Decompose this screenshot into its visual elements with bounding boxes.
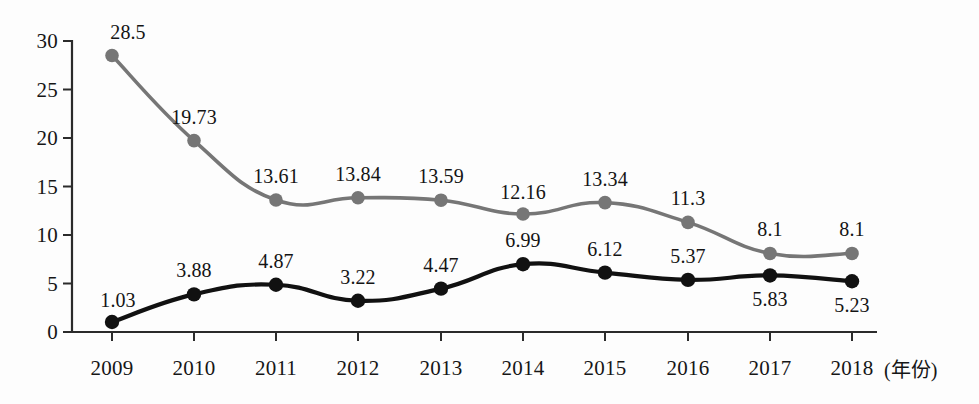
data-point-value-label: 13.34 <box>582 169 628 189</box>
data-point-marker <box>763 268 777 282</box>
data-point-value-label: 8.1 <box>839 219 864 239</box>
data-point-marker <box>681 216 695 230</box>
data-point-marker <box>516 207 530 221</box>
chart-plot-area <box>0 0 979 404</box>
data-point-value-label: 5.83 <box>752 289 787 309</box>
data-point-marker <box>351 191 365 205</box>
data-point-value-label: 13.61 <box>253 166 299 186</box>
data-point-value-label: 11.3 <box>671 188 706 208</box>
data-point-marker <box>269 278 283 292</box>
x-axis-tick-label: 2017 <box>749 358 792 379</box>
x-axis-tick-label: 2011 <box>255 358 297 379</box>
x-axis-tick-label: 2013 <box>420 358 463 379</box>
series-line-black-series <box>112 263 852 322</box>
series-line-gray-series <box>112 56 852 257</box>
data-point-marker <box>598 265 612 279</box>
data-point-marker <box>434 281 448 295</box>
data-point-value-label: 13.59 <box>418 166 464 186</box>
y-axis-tick-label: 0 <box>47 322 58 343</box>
x-axis-tick-label: 2009 <box>91 358 134 379</box>
data-point-marker <box>845 247 859 261</box>
data-point-value-label: 5.23 <box>834 295 869 315</box>
data-point-value-label: 8.1 <box>757 219 782 239</box>
y-axis-tick-label: 10 <box>37 225 58 246</box>
data-point-value-label: 1.03 <box>100 290 135 310</box>
data-point-value-label: 6.12 <box>587 239 622 259</box>
data-point-value-label: 5.37 <box>670 246 705 266</box>
x-axis-tick-label: 2010 <box>173 358 216 379</box>
data-point-marker <box>598 196 612 210</box>
data-point-value-label: 6.99 <box>505 230 540 250</box>
data-point-marker <box>105 49 119 63</box>
y-axis-tick-label: 5 <box>47 273 58 294</box>
chart-series-group <box>105 49 859 329</box>
x-axis-unit-label: (年份) <box>884 360 937 380</box>
x-axis-tick-label: 2016 <box>667 358 710 379</box>
data-point-marker <box>516 257 530 271</box>
y-axis-tick-label: 20 <box>37 128 58 149</box>
data-point-value-label: 28.5 <box>110 22 145 42</box>
y-axis-tick-label: 25 <box>37 79 58 100</box>
data-point-marker <box>763 247 777 261</box>
x-axis-tick-label: 2014 <box>502 358 545 379</box>
data-point-value-label: 3.22 <box>340 267 375 287</box>
data-point-marker <box>434 193 448 207</box>
x-axis-tick-label: 2018 <box>831 358 874 379</box>
data-point-marker <box>105 315 119 329</box>
data-point-value-label: 4.47 <box>423 255 458 275</box>
y-axis-tick-label: 15 <box>37 176 58 197</box>
data-point-value-label: 4.87 <box>258 251 293 271</box>
data-point-marker <box>681 273 695 287</box>
data-point-marker <box>187 134 201 148</box>
x-axis-tick-label: 2012 <box>337 358 380 379</box>
data-point-marker <box>351 294 365 308</box>
y-axis-tick-label: 30 <box>37 31 58 52</box>
line-chart: 051015202530 200920102011201220132014201… <box>0 0 979 404</box>
data-point-value-label: 12.16 <box>500 182 546 202</box>
data-point-marker <box>845 274 859 288</box>
x-axis-tick-label: 2015 <box>584 358 627 379</box>
data-point-marker <box>187 287 201 301</box>
data-point-value-label: 19.73 <box>171 107 217 127</box>
data-point-marker <box>269 193 283 207</box>
data-point-value-label: 13.84 <box>335 164 381 184</box>
data-point-value-label: 3.88 <box>176 260 211 280</box>
